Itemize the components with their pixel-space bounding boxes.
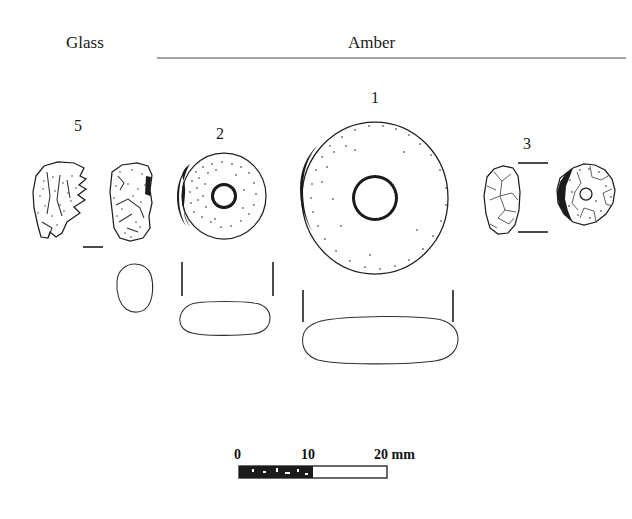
- item-5-section-profile: [117, 264, 153, 312]
- finds-drawing: [0, 0, 632, 519]
- item-2-bead-face: [177, 153, 266, 239]
- item-5-glass-fragment-a: [33, 162, 86, 238]
- item-5-glass-fragment-b: [110, 163, 152, 241]
- item-1-section-profile: [303, 316, 458, 363]
- scale-bar: [239, 466, 387, 478]
- finds-plate: Glass Amber 5 2 1 3 0 10 20 mm: [0, 0, 632, 519]
- item-1-bead-face: [300, 122, 448, 274]
- item-3-bead-profile: [484, 166, 520, 234]
- item-3-bead-face: [557, 164, 615, 225]
- item-2-section-profile: [180, 302, 270, 336]
